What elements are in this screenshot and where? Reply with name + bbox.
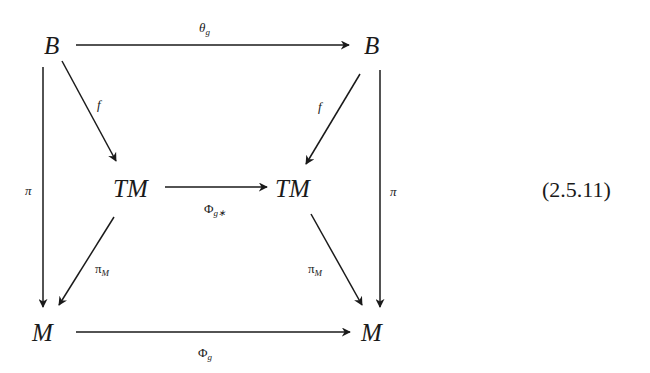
label-right-pi: π	[390, 184, 397, 199]
equation-number: (2.5.11)	[542, 177, 611, 202]
arrow-right-diag-piM	[311, 214, 362, 305]
label-left-piM: πM	[95, 261, 110, 278]
label-left-pi: π	[25, 183, 32, 198]
label-phi-g: Φg	[198, 345, 213, 362]
label-left-f: f	[97, 97, 103, 112]
node-bottom-right-M: M	[360, 319, 383, 346]
node-top-left-B: B	[44, 32, 59, 59]
label-phi-g-star: Φg∗	[204, 201, 226, 218]
commutative-diagram: B B TM TM M M θg Φg∗ Φg π π f f πM πM (2…	[0, 0, 650, 373]
label-right-f: f	[318, 99, 324, 114]
node-bottom-left-M: M	[31, 319, 54, 346]
label-theta: θg	[199, 20, 210, 37]
node-mid-left-TM: TM	[113, 175, 149, 202]
arrow-left-diag-piM	[59, 217, 114, 305]
arrow-right-diag-f	[306, 74, 360, 164]
node-top-right-B: B	[364, 32, 379, 59]
label-right-piM: πM	[308, 261, 323, 278]
arrow-left-diag-f	[62, 61, 116, 161]
node-mid-right-TM: TM	[275, 175, 311, 202]
